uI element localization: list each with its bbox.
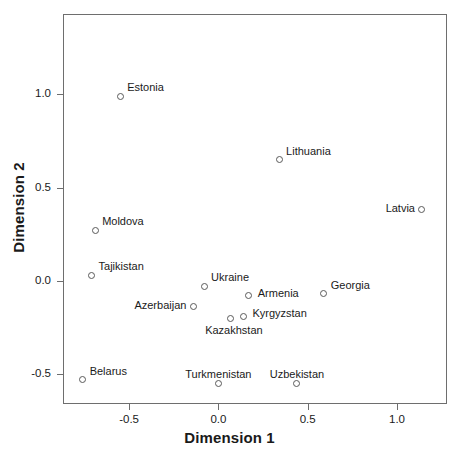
data-point-label: Kyrgyzstan	[252, 307, 306, 319]
data-point-label: Kazakhstan	[63, 324, 405, 336]
data-point-label: Armenia	[258, 287, 299, 299]
data-point-label: Azerbaijan	[63, 299, 186, 311]
data-point-marker[interactable]	[293, 380, 300, 387]
y-tick-label: 1.0	[11, 87, 51, 99]
y-axis-label: Dimension 2	[10, 108, 27, 308]
data-point-marker[interactable]	[320, 290, 327, 297]
x-tick-mark	[218, 404, 219, 410]
data-point-label: Uzbekistan	[63, 368, 459, 380]
x-tick-label: 0.5	[283, 413, 333, 425]
data-point-label: Tajikistan	[99, 260, 144, 272]
x-tick-mark	[129, 404, 130, 410]
data-point-label: Moldova	[102, 215, 144, 227]
data-point-marker[interactable]	[117, 93, 124, 100]
x-tick-mark	[397, 404, 398, 410]
data-point-marker[interactable]	[227, 315, 234, 322]
y-tick-label: -0.5	[11, 367, 51, 379]
data-point-marker[interactable]	[276, 156, 283, 163]
plot-data-area: EstoniaLithuaniaLatviaMoldovaTajikistanU…	[63, 14, 447, 404]
x-tick-label: 1.0	[372, 413, 422, 425]
x-tick-label: -0.5	[104, 413, 154, 425]
data-point-marker[interactable]	[215, 380, 222, 387]
data-point-label: Latvia	[63, 202, 415, 214]
data-point-marker[interactable]	[88, 272, 95, 279]
data-point-label: Ukraine	[211, 271, 249, 283]
data-point-marker[interactable]	[240, 313, 247, 320]
x-tick-label: 0.0	[193, 413, 243, 425]
data-point-marker[interactable]	[245, 292, 252, 299]
data-point-marker[interactable]	[201, 283, 208, 290]
data-point-marker[interactable]	[190, 303, 197, 310]
data-point-marker[interactable]	[418, 206, 425, 213]
data-point-label: Georgia	[331, 279, 370, 291]
x-axis-label: Dimension 1	[0, 429, 459, 446]
data-point-label: Lithuania	[286, 145, 331, 157]
data-point-label: Estonia	[127, 81, 164, 93]
data-point-marker[interactable]	[92, 227, 99, 234]
x-tick-mark	[308, 404, 309, 410]
scatter-plot-figure: -0.50.00.51.0 -0.50.00.51.0 EstoniaLithu…	[0, 0, 459, 458]
